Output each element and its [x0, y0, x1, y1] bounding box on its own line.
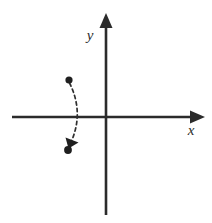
start-point-dot — [65, 76, 72, 83]
figure-canvas: y x — [0, 0, 212, 223]
y-axis-arrowhead — [100, 13, 113, 28]
end-point-dot — [64, 146, 72, 154]
trajectory-dashed-curve — [70, 83, 78, 141]
y-axis-label: y — [85, 27, 94, 43]
x-axis-label: x — [187, 122, 195, 138]
coordinate-plane-figure: y x — [0, 0, 212, 223]
